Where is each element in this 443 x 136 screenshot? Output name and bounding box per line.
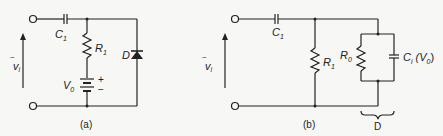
input-terminal-bottom: [30, 103, 37, 110]
input-terminal-top-b: [232, 16, 239, 23]
circuit-b: vi ~ C1 R1 R0 Ci (V0) D (b): [202, 14, 434, 132]
svg-text:~: ~: [202, 53, 207, 62]
resistor-r1-b: [311, 48, 319, 73]
r0-label: R0: [340, 49, 352, 63]
v0-label-a: V0: [63, 79, 74, 93]
resistor-r0: [357, 46, 365, 71]
circuit-a: vi ~ C1 R1 V0 + − D (a): [10, 14, 143, 130]
circuit-diagrams: vi ~ C1 R1 V0 + − D (a): [0, 0, 443, 136]
brace-label-d: D: [374, 121, 381, 132]
r1-label-b: R1: [323, 56, 335, 70]
caption-a: (a): [80, 119, 92, 130]
r1-label-a: R1: [95, 42, 107, 56]
diode-label-a: D: [122, 49, 130, 61]
c1-label-a: C1: [55, 28, 67, 42]
caption-b: (b): [303, 119, 315, 130]
diode-d: [131, 51, 143, 59]
input-terminal-bottom-b: [232, 103, 239, 110]
battery-minus: −: [98, 84, 104, 95]
brace-d: [361, 111, 394, 119]
svg-text:~: ~: [10, 53, 15, 62]
ci-label: Ci (V0): [403, 51, 434, 65]
resistor-r1: [83, 33, 91, 58]
c1-label-b: C1: [272, 26, 284, 40]
input-terminal-top: [30, 16, 37, 23]
